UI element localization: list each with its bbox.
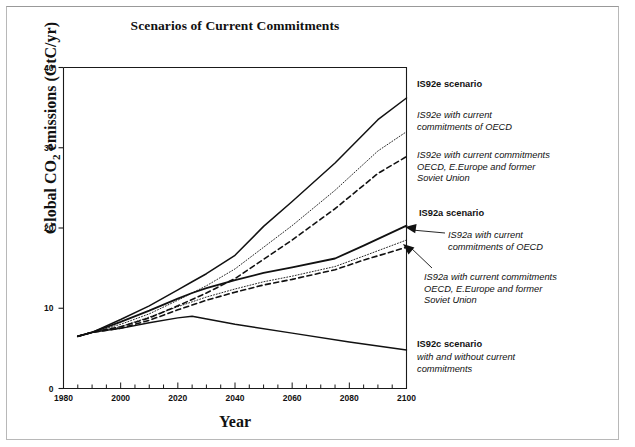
y-tick-40: 40 bbox=[28, 63, 54, 73]
annotation-is92c-sub: with and without currentcommitments bbox=[417, 352, 515, 375]
annotation-is92e-oecd-line-1: commitments of OECD bbox=[417, 122, 512, 134]
x-tick-2020: 2020 bbox=[158, 393, 198, 403]
x-tick-1980: 1980 bbox=[44, 393, 84, 403]
series-line-2 bbox=[78, 157, 407, 337]
annotation-is92a-oecd-eeurope: IS92a with current commitmentsOECD, E.Eu… bbox=[424, 272, 557, 307]
series-line-4 bbox=[78, 240, 407, 336]
x-tick-2080: 2080 bbox=[329, 393, 369, 403]
annotation-is92e-oecd: IS92e with currentcommitments of OECD bbox=[417, 110, 512, 133]
y-tick-10: 10 bbox=[28, 303, 54, 313]
x-tick-2100: 2100 bbox=[387, 393, 427, 403]
annotation-is92a-scenario: IS92a scenario bbox=[419, 208, 484, 220]
annotation-is92e-scenario-line-0: IS92e scenario bbox=[417, 79, 482, 91]
annotation-is92e-oecd-eeurope: IS92e with current commitmentsOECD, E.Eu… bbox=[417, 150, 550, 185]
series-lines bbox=[78, 98, 407, 350]
annotation-is92a-oecd-eeurope-line-0: IS92a with current commitments bbox=[424, 272, 557, 284]
y-tick-0: 0 bbox=[28, 384, 54, 394]
arrow-is92a-oecd-icon bbox=[405, 224, 445, 233]
series-line-5 bbox=[78, 247, 407, 336]
annotation-is92c-sub-line-1: commitments bbox=[417, 364, 515, 376]
annotation-is92c-scenario-line-0: IS92c scenario bbox=[417, 339, 482, 351]
axes bbox=[59, 68, 407, 389]
plot-canvas bbox=[0, 0, 635, 447]
annotation-is92a-scenario-line-0: IS92a scenario bbox=[419, 208, 484, 220]
arrow-is92a-oecd-eeurope-icon bbox=[403, 244, 432, 268]
callout-arrows bbox=[403, 224, 445, 268]
annotation-is92e-oecd-line-0: IS92e with current bbox=[417, 110, 512, 122]
annotation-is92a-oecd-eeurope-line-2: Soviet Union bbox=[424, 295, 557, 307]
annotation-is92c-sub-line-0: with and without current bbox=[417, 352, 515, 364]
series-line-6 bbox=[78, 316, 407, 350]
annotation-is92e-scenario: IS92e scenario bbox=[417, 79, 482, 91]
x-tick-2000: 2000 bbox=[101, 393, 141, 403]
annotation-is92c-scenario: IS92c scenario bbox=[417, 339, 482, 351]
annotation-is92a-oecd-line-1: commitments of OECD bbox=[448, 242, 543, 254]
annotation-is92a-oecd: IS92a with currentcommitments of OECD bbox=[448, 230, 543, 253]
annotation-is92e-oecd-eeurope-line-0: IS92e with current commitments bbox=[417, 150, 550, 162]
x-tick-2040: 2040 bbox=[215, 393, 255, 403]
series-line-3 bbox=[78, 226, 407, 337]
x-tick-2060: 2060 bbox=[272, 393, 312, 403]
annotation-is92a-oecd-eeurope-line-1: OECD, E.Europe and former bbox=[424, 284, 557, 296]
y-tick-20: 20 bbox=[28, 223, 54, 233]
y-tick-30: 30 bbox=[28, 143, 54, 153]
figure-page: Scenarios of Current Commitments Global … bbox=[0, 0, 635, 447]
series-line-1 bbox=[78, 132, 407, 337]
annotation-is92e-oecd-eeurope-line-1: OECD, E.Europe and former bbox=[417, 162, 550, 174]
annotation-is92a-oecd-line-0: IS92a with current bbox=[448, 230, 543, 242]
series-line-0 bbox=[78, 98, 407, 336]
annotation-is92e-oecd-eeurope-line-2: Soviet Union bbox=[417, 173, 550, 185]
